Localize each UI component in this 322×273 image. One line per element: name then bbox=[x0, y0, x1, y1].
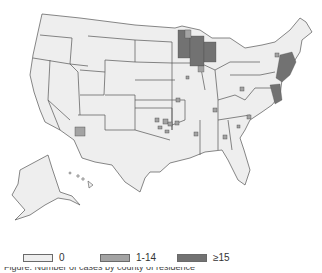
alaska-inset bbox=[12, 155, 80, 220]
legend: 0 1-14 ≥15 bbox=[0, 253, 322, 267]
us-county-choropleth-map bbox=[0, 0, 322, 245]
legend-swatch bbox=[23, 254, 53, 262]
contiguous-us bbox=[30, 14, 312, 192]
caption-text: Figure. Number of cases by county of res… bbox=[4, 267, 322, 273]
us-outline bbox=[30, 14, 312, 192]
legend-label: 1-14 bbox=[136, 253, 156, 263]
legend-item-0: 0 bbox=[23, 253, 65, 263]
legend-label: ≥15 bbox=[213, 253, 230, 263]
legend-label: 0 bbox=[59, 253, 65, 263]
legend-swatch bbox=[100, 254, 130, 262]
legend-swatch bbox=[177, 254, 207, 262]
legend-item-1-14: 1-14 bbox=[100, 253, 156, 263]
arizona-county bbox=[75, 127, 85, 136]
legend-item-ge15: ≥15 bbox=[177, 253, 230, 263]
hawaii-inset bbox=[69, 172, 93, 188]
figure-caption: Figure. Number of cases by county of res… bbox=[4, 267, 322, 273]
